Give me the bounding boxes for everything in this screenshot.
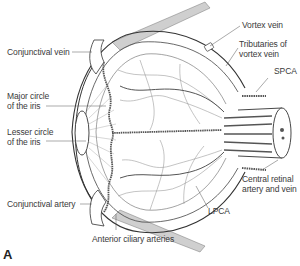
label-lesser-circle-line2: of the iris (7, 137, 40, 147)
label-central-retinal-line2: artery and vein (242, 184, 297, 194)
superior-muscle-shape (112, 2, 210, 50)
retinal-vessels (118, 60, 222, 210)
label-major-circle-line1: Major circle (7, 91, 49, 101)
lower-conjunctiva (90, 190, 106, 226)
label-conjunctival-artery: Conjunctival artery (7, 199, 76, 209)
label-tributaries-line2: vortex vein (239, 49, 279, 59)
label-central-retinal-line1: Central retinal (242, 174, 293, 184)
optic-nerve-cut (273, 108, 291, 158)
major-arterial-circle (103, 62, 113, 212)
label-tributaries-line1: Tributaries of (239, 39, 287, 49)
panel-label: A (3, 247, 12, 262)
label-spca: SPCA (274, 66, 297, 76)
label-lpca: LPCA (208, 206, 230, 216)
long-posterior-ciliary (112, 130, 222, 133)
label-major-circle-line2: of the iris (7, 101, 40, 111)
label-anterior-ciliary-arteries: Anterior ciliary arteries (92, 234, 174, 244)
eye-vascular-diagram: Conjunctival vein Major circle of the ir… (0, 0, 300, 266)
label-vortex-vein: Vortex vein (242, 20, 283, 30)
upper-conjunctiva (90, 40, 104, 74)
pupil-lens (75, 111, 89, 155)
inferior-muscle-shape (112, 210, 205, 252)
label-lesser-circle-line1: Lesser circle (7, 127, 53, 137)
label-conjunctival-vein: Conjunctival vein (7, 47, 70, 57)
